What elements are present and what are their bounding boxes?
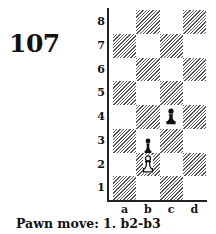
square-d4[interactable] (183, 105, 206, 129)
black-pawn-icon[interactable] (160, 105, 183, 129)
square-a7[interactable] (113, 34, 136, 58)
square-c6[interactable] (160, 58, 183, 82)
square-a3[interactable] (113, 129, 136, 153)
square-a2[interactable] (113, 153, 136, 177)
board-bottom-border (107, 200, 207, 202)
file-label-c: c (160, 203, 183, 217)
square-a1[interactable] (113, 176, 136, 200)
square-b8[interactable] (136, 10, 159, 34)
square-b4[interactable] (136, 105, 159, 129)
square-d1[interactable] (183, 176, 206, 200)
square-d5[interactable] (183, 81, 206, 105)
square-b2[interactable] (136, 153, 159, 177)
white-pawn-icon[interactable] (136, 153, 159, 177)
square-a6[interactable] (113, 58, 136, 82)
square-c1[interactable] (160, 176, 183, 200)
board-left-border (107, 8, 109, 201)
rank-label-3: 3 (96, 129, 106, 153)
square-a8[interactable] (113, 10, 136, 34)
square-d2[interactable] (183, 153, 206, 177)
square-c2[interactable] (160, 153, 183, 177)
rank-label-5: 5 (96, 81, 106, 105)
square-b5[interactable] (136, 81, 159, 105)
file-label-a: a (113, 203, 136, 217)
square-c8[interactable] (160, 10, 183, 34)
move-caption: Pawn move: 1. b2-b3 (16, 216, 161, 231)
square-d8[interactable] (183, 10, 206, 34)
square-c7[interactable] (160, 34, 183, 58)
file-labels: a b c d (113, 203, 206, 217)
square-d3[interactable] (183, 129, 206, 153)
rank-label-1: 1 (96, 176, 106, 200)
rank-labels: 8 7 6 5 4 3 2 1 (96, 10, 106, 200)
file-label-d: d (183, 203, 206, 217)
square-c5[interactable] (160, 81, 183, 105)
square-b1[interactable] (136, 176, 159, 200)
square-b6[interactable] (136, 58, 159, 82)
square-c3[interactable] (160, 129, 183, 153)
square-d7[interactable] (183, 34, 206, 58)
rank-label-2: 2 (96, 153, 106, 177)
square-b7[interactable] (136, 34, 159, 58)
rank-label-4: 4 (96, 105, 106, 129)
chess-board (113, 10, 206, 200)
rank-label-8: 8 (96, 10, 106, 34)
square-c4[interactable] (160, 105, 183, 129)
square-a5[interactable] (113, 81, 136, 105)
file-label-b: b (136, 203, 159, 217)
rank-label-7: 7 (96, 34, 106, 58)
square-a4[interactable] (113, 105, 136, 129)
puzzle-number: 107 (9, 29, 60, 58)
rank-label-6: 6 (96, 58, 106, 82)
square-d6[interactable] (183, 58, 206, 82)
square-b3[interactable] (136, 129, 159, 153)
